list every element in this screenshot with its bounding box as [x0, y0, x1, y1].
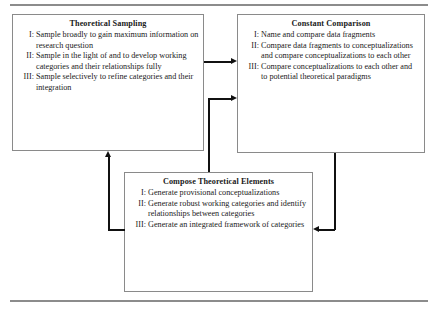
- connector-compose-to-comparison-arrowhead: [231, 95, 237, 101]
- list-item: III: Compare conceptualizations to each …: [242, 62, 420, 83]
- connector-compose-to-comparison-vertical: [208, 98, 210, 172]
- item-text: Name and compare data fragments: [261, 30, 420, 41]
- item-numeral: III:: [17, 72, 36, 93]
- item-list-compose-theoretical-elements: I: Generate provisional conceptualizatio…: [129, 188, 308, 230]
- list-item: II: Compare data fragments to conceptual…: [242, 41, 420, 62]
- list-item: I: Generate provisional conceptualizatio…: [129, 188, 308, 199]
- connector-compose-to-comparison-horizontal: [208, 98, 231, 100]
- item-text: Compare data fragments to conceptualizat…: [261, 41, 420, 62]
- item-text: Sample broadly to gain maximum informati…: [36, 30, 199, 51]
- connector-comparison-to-compose-horizontal: [319, 229, 335, 231]
- item-text: Sample selectively to refine categories …: [36, 72, 199, 93]
- box-theoretical-sampling: Theoretical Sampling I: Sample broadly t…: [12, 14, 204, 151]
- connector-compose-to-sampling-horizontal: [108, 229, 125, 231]
- connector-compose-to-sampling-arrowhead: [105, 151, 111, 157]
- item-numeral: I:: [17, 30, 36, 51]
- list-item: I: Sample broadly to gain maximum inform…: [17, 30, 199, 51]
- box-constant-comparison: Constant Comparison I: Name and compare …: [237, 14, 425, 153]
- item-numeral: II:: [17, 51, 36, 72]
- list-item: II: Sample in the light of and to develo…: [17, 51, 199, 72]
- box-compose-theoretical-elements: Compose Theoretical Elements I: Generate…: [124, 172, 313, 292]
- item-numeral: I:: [242, 30, 261, 41]
- top-divider-rule: [10, 4, 428, 6]
- connector-compose-to-sampling-vertical: [108, 157, 110, 230]
- item-numeral: II:: [242, 41, 261, 62]
- item-text: Generate robust working categories and i…: [148, 199, 308, 220]
- bottom-divider-rule: [10, 300, 428, 302]
- item-numeral: I:: [129, 188, 148, 199]
- item-text: Sample in the light of and to develop wo…: [36, 51, 199, 72]
- connector-sampling-to-comparison-line: [204, 61, 231, 63]
- connector-sampling-to-comparison-arrowhead: [231, 58, 237, 64]
- list-item: III: Generate an integrated framework of…: [129, 220, 308, 231]
- list-item: I: Name and compare data fragments: [242, 30, 420, 41]
- connector-comparison-to-compose-arrowhead: [313, 226, 319, 232]
- box-title-theoretical-sampling: Theoretical Sampling: [17, 18, 199, 29]
- item-list-constant-comparison: I: Name and compare data fragments II: C…: [242, 30, 420, 83]
- list-item: III: Sample selectively to refine catego…: [17, 72, 199, 93]
- item-text: Compare conceptualizations to each other…: [261, 62, 420, 83]
- connector-comparison-to-compose-vertical: [334, 153, 336, 230]
- box-title-constant-comparison: Constant Comparison: [242, 18, 420, 29]
- item-list-theoretical-sampling: I: Sample broadly to gain maximum inform…: [17, 30, 199, 94]
- grounded-theory-process-diagram: Theoretical Sampling I: Sample broadly t…: [0, 0, 438, 311]
- item-numeral: III:: [242, 62, 261, 83]
- item-numeral: II:: [129, 199, 148, 220]
- item-numeral: III:: [129, 220, 148, 231]
- item-text: Generate an integrated framework of cate…: [148, 220, 308, 231]
- list-item: II: Generate robust working categories a…: [129, 199, 308, 220]
- box-title-compose-theoretical-elements: Compose Theoretical Elements: [129, 176, 308, 187]
- item-text: Generate provisional conceptualizations: [148, 188, 308, 199]
